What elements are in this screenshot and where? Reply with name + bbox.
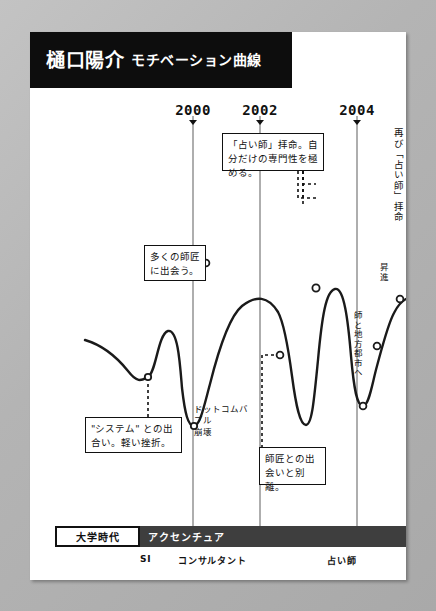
- poster-page: 樋口陽介 モチベーション曲線: [0, 0, 436, 611]
- role-fortune-teller: 占い師: [327, 554, 356, 567]
- label-promotion: 昇進: [377, 263, 387, 282]
- marker-system: [145, 374, 151, 380]
- marker-promotion: [374, 343, 381, 350]
- role-si: SI: [140, 554, 151, 564]
- motivation-curve-svg: [30, 88, 406, 580]
- leader-lines: [148, 148, 316, 448]
- callout-many-mentors: 多くの師匠に出会う。: [144, 245, 206, 281]
- label-local-city: 師と地方都市へ: [351, 311, 361, 378]
- legend-company: アクセンチュア: [140, 526, 406, 547]
- marker-uranaishi: [312, 284, 319, 291]
- label-dotcom-crash: ドットコムバブル 崩壊: [194, 404, 256, 438]
- year-marker-2000: [189, 120, 197, 125]
- plot-area: 2000 2002 2004 「占い師」拝命。自分だけの専門性を極める。 多くの…: [30, 88, 406, 580]
- label-uranaishi-again: 再び「占い師」拝命: [392, 128, 403, 223]
- callout-mentor-meeting: 師匠との出会いと別離。: [259, 447, 326, 485]
- year-marker-2002: [256, 120, 264, 125]
- title-banner: 樋口陽介 モチベーション曲線: [30, 32, 292, 88]
- marker-mentor-meeting: [277, 352, 284, 359]
- marker-local-city: [360, 403, 367, 410]
- marker-uranaishi-again: [397, 296, 404, 303]
- leader-elbow-peak: [298, 171, 316, 198]
- legend-university: 大学時代: [55, 526, 140, 547]
- callout-system: "システム" との出合い。軽い挫折。: [85, 417, 182, 453]
- year-label-2004: 2004: [339, 102, 375, 118]
- callout-uranaishi: 「占い師」拝命。自分だけの専門性を極める。: [222, 133, 324, 171]
- year-label-2000: 2000: [175, 102, 211, 118]
- page-title: 樋口陽介: [46, 51, 124, 70]
- year-label-2002: 2002: [242, 102, 278, 118]
- year-marker-2004: [353, 120, 361, 125]
- role-consultant: コンサルタント: [178, 554, 247, 567]
- page-subtitle: モチベーション曲線: [131, 53, 262, 67]
